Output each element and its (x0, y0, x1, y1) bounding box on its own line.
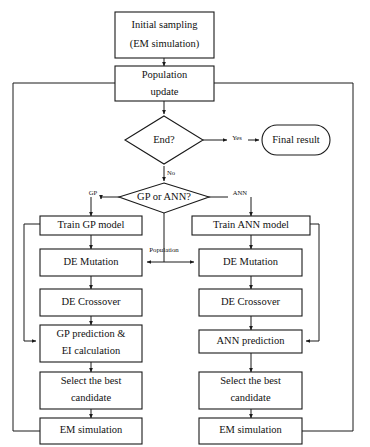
node-gp-prediction[interactable]: GP prediction & EI calculation (40, 325, 142, 362)
node-select-best-left-line1: Select the best (61, 375, 122, 386)
node-train-ann-model[interactable]: Train ANN model (192, 216, 310, 235)
node-de-mutation-right-label: DE Mutation (223, 256, 279, 267)
node-final-result-label: Final result (272, 134, 320, 145)
node-end-decision-label: End? (153, 134, 175, 145)
node-de-crossover-right-label: DE Crossover (221, 296, 281, 307)
node-final-result[interactable]: Final result (262, 125, 330, 155)
node-end-decision[interactable]: End? (125, 116, 203, 164)
node-population-update[interactable]: Population update (115, 66, 214, 101)
edge-label-ann: ANN (233, 189, 248, 196)
node-initial-sampling-line1: Initial sampling (131, 19, 198, 30)
node-model-decision-label: GP or ANN? (137, 191, 191, 202)
node-initial-sampling-line2: (EM simulation) (130, 38, 200, 50)
edge-left-inner-loop (24, 224, 40, 341)
edge-label-population: Population (149, 246, 179, 253)
edge-right-inner-loop (306, 224, 319, 341)
node-ann-prediction[interactable]: ANN prediction (199, 330, 302, 353)
edge-label-yes: Yes (232, 134, 242, 141)
node-select-best-right[interactable]: Select the best candidate (199, 372, 302, 409)
node-de-mutation-right[interactable]: DE Mutation (199, 249, 302, 276)
node-de-crossover-left[interactable]: DE Crossover (40, 289, 142, 316)
node-de-mutation-left[interactable]: DE Mutation (40, 249, 142, 276)
node-ann-prediction-label: ANN prediction (217, 335, 286, 346)
node-select-best-left[interactable]: Select the best candidate (40, 372, 142, 409)
node-em-simulation-right[interactable]: EM simulation (199, 418, 302, 444)
flowchart-canvas: Initial sampling (EM simulation) Populat… (0, 0, 370, 447)
node-de-crossover-right[interactable]: DE Crossover (199, 289, 302, 316)
node-de-mutation-left-label: DE Mutation (63, 256, 119, 267)
node-em-simulation-right-label: EM simulation (219, 424, 282, 435)
node-em-simulation-left[interactable]: EM simulation (40, 418, 142, 444)
node-select-best-right-line2: candidate (230, 392, 271, 403)
flowchart-svg: Initial sampling (EM simulation) Populat… (0, 0, 370, 447)
node-model-decision[interactable]: GP or ANN? (119, 183, 209, 213)
node-select-best-left-line2: candidate (71, 392, 112, 403)
node-em-simulation-left-label: EM simulation (60, 424, 123, 435)
node-population-update-line2: update (151, 86, 179, 97)
node-train-gp-model-label: Train GP model (58, 219, 125, 230)
edge-label-gp: GP (89, 189, 98, 196)
node-gp-prediction-line2: EI calculation (62, 345, 121, 356)
node-initial-sampling[interactable]: Initial sampling (EM simulation) (115, 12, 214, 58)
node-population-update-line1: Population (142, 69, 188, 80)
node-de-crossover-left-label: DE Crossover (61, 296, 121, 307)
edge-label-no: No (167, 169, 176, 176)
node-select-best-right-line1: Select the best (220, 375, 281, 386)
node-gp-prediction-line1: GP prediction & (56, 328, 125, 339)
node-train-gp-model[interactable]: Train GP model (40, 216, 142, 235)
node-train-ann-model-label: Train ANN model (213, 219, 289, 230)
